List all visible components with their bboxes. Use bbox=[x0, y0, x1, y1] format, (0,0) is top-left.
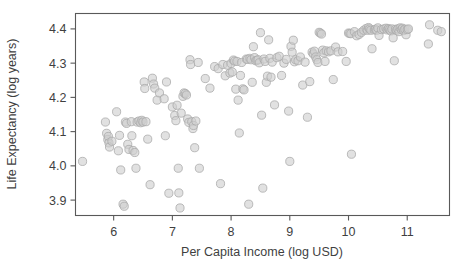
data-point bbox=[160, 95, 168, 103]
y-tick-label: 4.3 bbox=[49, 57, 66, 71]
scatter-plot-figure: 67891011 3.94.04.14.24.34.4 Per Capita I… bbox=[0, 0, 463, 274]
data-point bbox=[329, 75, 337, 83]
data-point bbox=[245, 200, 253, 208]
y-tick-label: 4.1 bbox=[49, 125, 66, 139]
data-point bbox=[115, 131, 123, 139]
y-tick-label: 3.9 bbox=[49, 194, 66, 208]
x-tick-label: 10 bbox=[342, 225, 356, 239]
data-point bbox=[201, 74, 209, 82]
data-point bbox=[425, 21, 433, 29]
x-tick-label: 11 bbox=[401, 225, 414, 239]
data-point bbox=[301, 58, 309, 66]
data-point bbox=[286, 157, 294, 165]
data-point bbox=[173, 101, 181, 109]
data-point bbox=[288, 48, 296, 56]
data-point bbox=[113, 108, 121, 116]
data-point bbox=[128, 132, 136, 140]
data-point bbox=[182, 91, 190, 99]
data-point bbox=[132, 164, 140, 172]
data-point bbox=[108, 137, 116, 145]
data-point bbox=[162, 78, 170, 86]
data-point bbox=[424, 40, 432, 48]
x-axis-tick-marks bbox=[114, 216, 408, 221]
data-point bbox=[186, 60, 194, 68]
data-point bbox=[285, 107, 293, 115]
data-point bbox=[192, 117, 200, 125]
data-point bbox=[248, 78, 256, 86]
data-point bbox=[142, 118, 150, 126]
y-axis-tick-marks bbox=[71, 29, 76, 200]
data-point bbox=[141, 84, 149, 92]
data-point bbox=[195, 164, 203, 172]
data-point bbox=[306, 78, 314, 86]
plot-canvas: 67891011 3.94.04.14.24.34.4 Per Capita I… bbox=[0, 0, 463, 274]
data-point bbox=[78, 157, 86, 165]
data-point bbox=[317, 30, 325, 38]
data-point bbox=[206, 84, 214, 92]
data-point bbox=[258, 111, 266, 119]
data-point bbox=[165, 189, 173, 197]
data-point bbox=[191, 144, 199, 152]
data-point bbox=[235, 129, 243, 137]
x-tick-label: 8 bbox=[228, 225, 235, 239]
data-point bbox=[368, 45, 376, 53]
data-point bbox=[120, 202, 128, 210]
y-axis-tick-labels: 3.94.04.14.24.34.4 bbox=[49, 22, 66, 207]
data-point bbox=[259, 184, 267, 192]
data-point bbox=[321, 57, 329, 65]
data-point bbox=[339, 47, 347, 55]
y-axis-title: Life Expectancy (log years) bbox=[5, 39, 19, 190]
data-point bbox=[277, 71, 285, 79]
data-point bbox=[194, 58, 202, 66]
y-tick-label: 4.4 bbox=[49, 22, 66, 36]
x-axis-title: Per Capita Income (log USD) bbox=[181, 245, 343, 259]
x-axis-tick-labels: 67891011 bbox=[110, 225, 414, 239]
data-point bbox=[172, 117, 180, 125]
data-point bbox=[249, 43, 257, 51]
data-point bbox=[146, 181, 154, 189]
scatter-data-points bbox=[78, 21, 445, 212]
data-point bbox=[175, 189, 183, 197]
data-point bbox=[303, 113, 311, 121]
data-point bbox=[282, 55, 290, 63]
data-point bbox=[177, 109, 185, 117]
data-point bbox=[256, 29, 264, 37]
x-tick-label: 7 bbox=[169, 225, 176, 239]
data-point bbox=[267, 73, 275, 81]
data-point bbox=[390, 57, 398, 65]
data-point bbox=[289, 36, 297, 44]
y-tick-label: 4.0 bbox=[49, 159, 66, 173]
data-point bbox=[265, 36, 273, 44]
data-point bbox=[114, 147, 122, 155]
data-point bbox=[347, 150, 355, 158]
data-point bbox=[404, 25, 412, 33]
data-point bbox=[144, 135, 152, 143]
data-point bbox=[131, 148, 139, 156]
data-point bbox=[216, 180, 224, 188]
data-point bbox=[234, 96, 242, 104]
data-point bbox=[342, 57, 350, 65]
data-point bbox=[236, 71, 244, 79]
data-point bbox=[101, 118, 109, 126]
x-tick-label: 6 bbox=[110, 225, 117, 239]
data-point bbox=[176, 204, 184, 212]
data-point bbox=[270, 101, 278, 109]
data-point bbox=[174, 164, 182, 172]
data-point bbox=[240, 86, 248, 94]
data-point bbox=[117, 166, 125, 174]
data-point bbox=[161, 132, 169, 140]
data-point bbox=[228, 68, 236, 76]
y-tick-label: 4.2 bbox=[49, 91, 66, 105]
data-point bbox=[437, 28, 445, 36]
x-tick-label: 9 bbox=[286, 225, 293, 239]
